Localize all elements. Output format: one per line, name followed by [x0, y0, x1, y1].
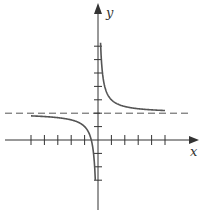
axes: [5, 3, 199, 210]
left-branch: [31, 116, 95, 180]
function-plot: y x: [0, 0, 203, 216]
x-axis-arrow-icon: [189, 136, 199, 144]
x-axis-label: x: [190, 144, 198, 159]
right-branch: [101, 43, 165, 111]
y-axis-label: y: [105, 5, 114, 20]
y-axis-arrow-icon: [94, 3, 102, 14]
